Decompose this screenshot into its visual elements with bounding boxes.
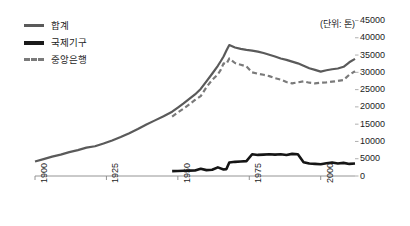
x-axis-tick-label: 1950 bbox=[182, 163, 192, 183]
x-axis-tick-label: 1975 bbox=[253, 163, 263, 183]
x-axis-tick-label: 1925 bbox=[110, 163, 120, 183]
x-axis-tick-labels: 19001925195019752000 bbox=[0, 0, 410, 226]
x-axis-tick-label: 1900 bbox=[39, 163, 49, 183]
x-axis-tick-label: 2000 bbox=[325, 163, 335, 183]
chart-container: 합계 국제기구 중앙은행 (단위: 톤) 0500010000150002000… bbox=[0, 0, 410, 226]
